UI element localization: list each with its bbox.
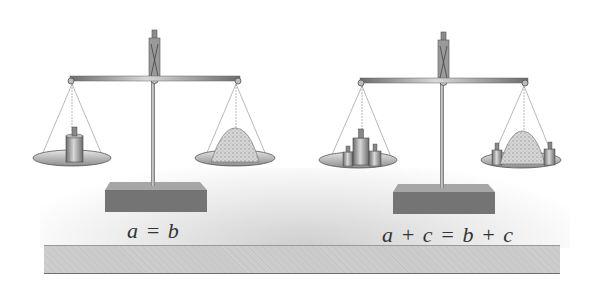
right-pan <box>481 131 561 168</box>
scale-pointer <box>438 32 449 86</box>
left-pan <box>33 127 111 166</box>
caption-left: a = b <box>127 218 180 244</box>
figure: a = b a + c = b + c <box>0 0 598 290</box>
scale-pointer <box>149 30 160 84</box>
caption-right: a + c = b + c <box>382 222 514 248</box>
left-pan <box>319 129 397 168</box>
sand-pile-b <box>500 131 545 164</box>
weight-a <box>66 127 83 162</box>
weight-c-right-2 <box>544 142 555 165</box>
weight-c-left-1 <box>343 146 353 166</box>
scale-beam <box>70 76 240 81</box>
scale-pole <box>151 78 155 186</box>
sand-pile-b <box>211 128 259 162</box>
scale-right <box>319 32 561 214</box>
scale-beam <box>360 78 528 83</box>
weight-a <box>353 129 369 165</box>
weight-c-left-2 <box>369 144 381 166</box>
scale-pole <box>440 80 444 188</box>
scale-base <box>393 184 495 214</box>
scale-base <box>105 182 207 212</box>
right-pan <box>195 128 275 166</box>
scale-left <box>33 30 275 212</box>
